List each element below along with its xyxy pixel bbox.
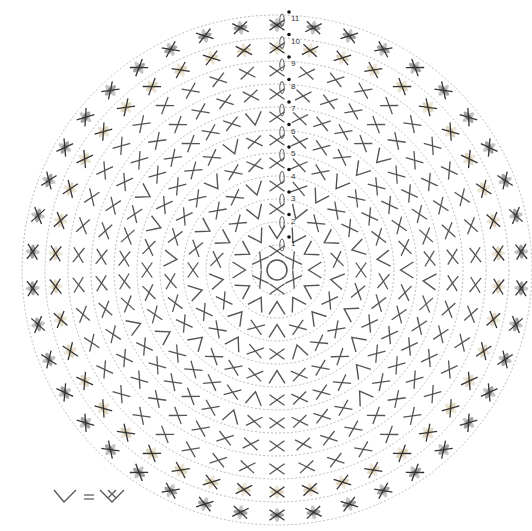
row-number-label: 10	[291, 37, 300, 46]
single-crochet-icon	[106, 197, 121, 215]
increase-stitch-icon	[346, 331, 366, 351]
single-crochet-icon	[171, 60, 191, 79]
single-crochet-icon	[156, 196, 173, 214]
single-crochet-icon	[99, 222, 113, 239]
increase-stitch-icon	[330, 174, 350, 194]
increase-stitch-icon	[320, 229, 339, 249]
single-crochet-icon	[184, 162, 202, 180]
guide-ring	[22, 15, 532, 525]
single-crochet-icon	[270, 181, 285, 192]
single-crochet-icon	[474, 342, 493, 361]
single-crochet-icon	[96, 161, 113, 179]
single-crochet-icon	[246, 136, 263, 149]
single-crochet-icon	[285, 251, 302, 269]
increase-stitch-icon	[309, 188, 329, 207]
single-crochet-icon	[344, 421, 362, 437]
single-crochet-icon	[291, 368, 308, 381]
single-crochet-icon	[270, 418, 285, 429]
single-crochet-icon	[239, 67, 255, 80]
single-crochet-icon	[354, 135, 372, 152]
single-crochet-icon	[149, 165, 167, 183]
single-crochet-icon	[421, 173, 438, 191]
increase-stitch-icon	[155, 325, 174, 345]
row-number-label: 1	[291, 239, 296, 248]
single-crochet-icon	[216, 95, 233, 109]
single-crochet-icon	[168, 228, 183, 246]
single-crochet-icon	[270, 89, 285, 100]
single-crochet-icon	[270, 112, 285, 123]
single-crochet-icon	[209, 202, 227, 220]
single-crochet-icon	[252, 251, 269, 269]
single-crochet-icon	[470, 247, 482, 263]
single-crochet-icon	[405, 57, 425, 77]
single-crochet-icon	[333, 374, 351, 391]
single-crochet-icon	[73, 247, 85, 263]
single-crochet-icon	[455, 334, 470, 352]
single-crochet-icon	[25, 280, 40, 296]
single-crochet-icon	[169, 177, 187, 195]
single-crochet-icon	[464, 306, 478, 323]
single-crochet-icon	[433, 197, 448, 215]
increase-stitch-icon	[246, 204, 265, 222]
increase-stitch-icon	[350, 160, 370, 180]
single-crochet-icon	[202, 400, 220, 416]
single-crochet-icon	[424, 251, 436, 267]
single-crochet-icon	[121, 296, 135, 313]
single-crochet-icon	[189, 240, 203, 257]
single-crochet-icon	[363, 60, 383, 79]
guide-ring	[229, 222, 325, 318]
increase-stitch-icon	[188, 282, 205, 301]
row-number-label: 3	[291, 194, 296, 203]
single-crochet-icon	[210, 251, 223, 268]
single-crochet-icon	[412, 317, 427, 335]
row-number-label: 11	[291, 14, 300, 23]
single-crochet-icon	[116, 349, 133, 367]
single-crochet-icon	[147, 306, 162, 324]
single-crochet-icon	[371, 294, 386, 312]
single-crochet-icon	[298, 67, 314, 80]
single-crochet-icon	[298, 460, 314, 473]
single-crochet-icon	[440, 121, 460, 142]
single-crochet-icon	[61, 179, 80, 198]
single-crochet-icon	[209, 320, 227, 338]
single-crochet-icon	[76, 217, 90, 234]
single-crochet-icon	[99, 301, 113, 318]
single-crochet-icon	[289, 320, 307, 335]
single-crochet-icon	[380, 426, 398, 443]
single-crochet-icon	[401, 184, 418, 202]
single-crochet-icon	[313, 140, 331, 155]
row-number-label: 4	[291, 172, 296, 181]
single-crochet-icon	[168, 294, 183, 312]
single-crochet-icon	[307, 214, 325, 232]
single-crochet-icon	[354, 441, 372, 457]
single-crochet-icon	[305, 20, 322, 36]
single-crochet-icon	[192, 103, 210, 119]
single-crochet-icon	[418, 97, 439, 118]
single-crochet-icon	[169, 116, 187, 133]
single-crochet-icon	[470, 277, 482, 293]
single-crochet-icon	[161, 40, 181, 59]
single-crochet-icon	[412, 205, 427, 223]
single-crochet-icon	[292, 415, 308, 428]
single-crochet-icon	[381, 326, 398, 344]
guide-ring	[137, 130, 417, 410]
single-crochet-icon	[305, 504, 322, 520]
single-crochet-icon	[246, 368, 263, 381]
guide-ring	[160, 153, 394, 387]
single-crochet-icon	[93, 398, 113, 419]
single-crochet-icon	[196, 27, 215, 45]
increase-stitch-icon	[269, 302, 285, 315]
single-crochet-icon	[424, 137, 442, 155]
single-crochet-icon	[464, 217, 478, 234]
row-marker: 3	[280, 190, 296, 206]
single-crochet-icon	[507, 207, 524, 225]
increase-stitch-icon	[376, 250, 390, 267]
single-crochet-icon	[447, 275, 459, 291]
single-crochet-icon	[388, 132, 406, 150]
single-crochet-icon	[239, 460, 255, 473]
single-crochet-icon	[327, 453, 344, 467]
single-crochet-icon	[148, 132, 166, 150]
single-crochet-icon	[246, 159, 263, 172]
single-crochet-icon	[131, 371, 149, 389]
increase-stitch-icon	[329, 272, 344, 290]
